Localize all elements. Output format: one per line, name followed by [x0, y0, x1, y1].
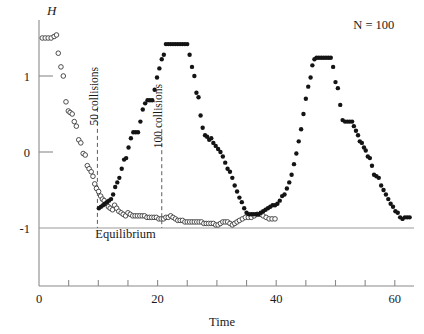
- data-point: [282, 192, 286, 196]
- y-axis-tick-label: -1: [20, 222, 30, 236]
- series-filled-circles: [97, 42, 412, 221]
- data-point: [360, 141, 364, 145]
- data-point: [54, 33, 59, 38]
- data-point: [92, 182, 97, 187]
- data-point: [331, 65, 335, 69]
- data-point: [79, 141, 84, 146]
- data-point: [117, 176, 121, 180]
- data-point: [310, 63, 314, 67]
- data-point: [381, 188, 385, 192]
- data-point: [138, 119, 142, 123]
- data-point: [218, 150, 222, 154]
- data-point: [308, 75, 312, 79]
- labels-layer: 020406001-1HTimeN = 100Equilibrium50 col…: [20, 3, 401, 329]
- data-point: [228, 170, 232, 174]
- data-point: [56, 51, 61, 56]
- data-point: [83, 153, 88, 158]
- data-point: [196, 95, 200, 99]
- data-point: [113, 185, 117, 189]
- x-axis-tick-label: 40: [270, 292, 283, 306]
- data-point: [141, 107, 145, 111]
- data-point: [306, 84, 310, 88]
- data-point: [292, 162, 296, 166]
- data-point: [278, 198, 282, 202]
- data-point: [235, 189, 239, 193]
- n-value-note: N = 100: [353, 18, 394, 32]
- data-point: [230, 176, 234, 180]
- data-point: [407, 215, 411, 219]
- data-point: [370, 163, 374, 167]
- data-point: [285, 186, 289, 190]
- data-point: [91, 174, 96, 179]
- data-point: [333, 80, 337, 84]
- data-point: [304, 97, 308, 101]
- data-point: [109, 197, 113, 201]
- data-points-layer: [40, 33, 412, 228]
- y-axis-tick-label: 1: [24, 70, 30, 84]
- data-point: [209, 136, 213, 140]
- data-point: [237, 195, 241, 199]
- x-axis-tick-label: 20: [151, 292, 164, 306]
- data-point: [223, 160, 227, 164]
- data-point: [379, 183, 383, 187]
- data-point: [129, 136, 133, 140]
- data-point: [190, 65, 194, 69]
- data-point: [368, 156, 372, 160]
- data-point: [70, 112, 75, 117]
- equilibrium-label: Equilibrium: [95, 227, 156, 241]
- data-point: [72, 119, 77, 124]
- data-point: [377, 176, 381, 180]
- data-point: [301, 112, 305, 116]
- x-axis-tick-label: 60: [389, 292, 402, 306]
- x-axis-tick-label: 0: [36, 292, 42, 306]
- data-point: [136, 130, 140, 134]
- data-point: [120, 167, 124, 171]
- data-point: [89, 169, 94, 174]
- collisions-annotation-label: 50 collisions: [88, 66, 100, 125]
- figure-container: 020406001-1HTimeN = 100Equilibrium50 col…: [0, 0, 424, 334]
- data-point: [192, 74, 196, 78]
- axes-layer: [39, 20, 414, 286]
- data-point: [364, 148, 368, 152]
- data-point: [356, 133, 360, 137]
- data-point: [384, 192, 388, 196]
- data-point: [64, 100, 69, 105]
- data-point: [160, 57, 164, 61]
- data-point: [396, 211, 400, 215]
- data-point: [297, 139, 301, 143]
- data-point: [354, 129, 358, 133]
- data-point: [242, 206, 246, 210]
- data-point: [391, 205, 395, 209]
- data-point: [352, 124, 356, 128]
- data-point: [111, 192, 115, 196]
- data-point: [200, 125, 204, 129]
- x-axis-title: Time: [209, 315, 235, 329]
- h-vs-time-scatter-plot: 020406001-1HTimeN = 100Equilibrium50 col…: [0, 0, 424, 334]
- data-point: [240, 200, 244, 204]
- data-point: [96, 189, 101, 194]
- data-point: [194, 91, 198, 95]
- data-point: [287, 180, 291, 184]
- data-point: [74, 124, 79, 129]
- y-axis-tick-label: 0: [24, 146, 30, 160]
- data-point: [162, 53, 166, 57]
- data-point: [185, 42, 189, 46]
- data-point: [336, 86, 340, 90]
- y-axis-title: H: [46, 3, 57, 18]
- data-point: [198, 113, 202, 117]
- data-point: [299, 127, 303, 131]
- collisions-annotation-label: 100 collisions: [152, 83, 164, 148]
- data-point: [273, 217, 278, 222]
- data-point: [126, 145, 130, 149]
- data-point: [294, 151, 298, 155]
- data-point: [289, 173, 293, 177]
- data-point: [124, 156, 128, 160]
- data-point: [59, 65, 64, 70]
- data-point: [115, 180, 119, 184]
- data-point: [329, 56, 333, 60]
- data-point: [232, 183, 236, 187]
- data-point: [187, 53, 191, 57]
- data-point: [61, 74, 66, 79]
- data-point: [221, 154, 225, 158]
- data-point: [155, 75, 159, 79]
